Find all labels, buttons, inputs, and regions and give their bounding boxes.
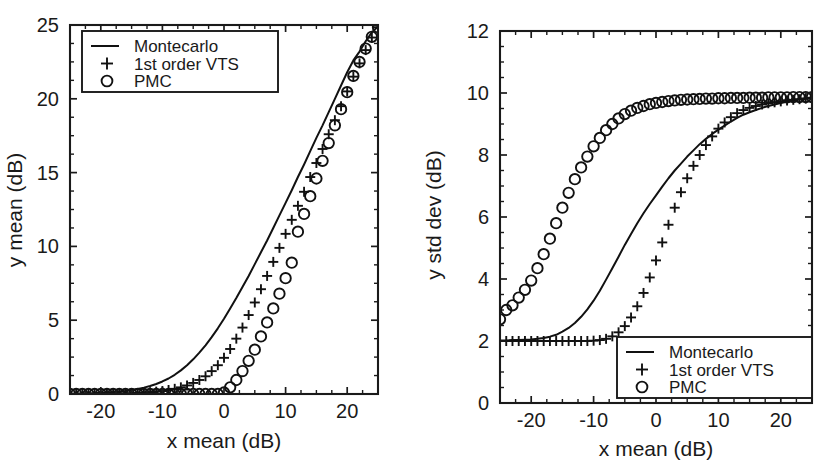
- marker-circle: [607, 119, 617, 129]
- marker-plus: [663, 220, 673, 230]
- marker-circle: [299, 209, 309, 219]
- marker-circle: [243, 356, 253, 366]
- chart-panel-right: -20-1001020024681012x mean (dB)y std dev…: [419, 0, 838, 469]
- marker-plus: [225, 344, 235, 354]
- legend-item-label: PMC: [134, 72, 172, 91]
- x-tick-label: 10: [274, 400, 296, 422]
- legend-item-label: PMC: [669, 378, 707, 397]
- marker-plus: [720, 117, 730, 127]
- series-montecarlo: [500, 97, 812, 340]
- marker-circle: [557, 203, 567, 213]
- marker-plus: [231, 334, 241, 344]
- marker-circle: [601, 125, 611, 135]
- marker-plus: [626, 312, 636, 322]
- marker-plus: [311, 158, 321, 168]
- series-1st-order-vts: [495, 93, 817, 346]
- y-tick-label: 20: [37, 88, 59, 110]
- marker-circle: [237, 366, 247, 376]
- right-plot-svg: -20-1001020024681012x mean (dB)y std dev…: [419, 0, 838, 469]
- marker-circle: [532, 263, 542, 273]
- x-tick-label: -20: [517, 409, 546, 431]
- y-tick-label: 5: [48, 309, 59, 331]
- y-tick-label: 12: [467, 20, 489, 42]
- marker-plus: [287, 215, 297, 225]
- series-line-path: [500, 97, 812, 340]
- marker-plus: [256, 284, 266, 294]
- marker-circle: [293, 226, 303, 236]
- marker-plus: [639, 288, 649, 298]
- marker-circle: [287, 257, 297, 267]
- marker-circle: [274, 288, 284, 298]
- x-axis-title: x mean (dB): [167, 429, 281, 452]
- marker-plus: [601, 334, 611, 344]
- marker-circle: [570, 174, 580, 184]
- marker-plus: [213, 360, 223, 370]
- chart-panel-left: -20-10010200510152025x mean (dB)y mean (…: [0, 0, 419, 469]
- marker-plus: [670, 203, 680, 213]
- marker-circle: [250, 345, 260, 355]
- marker-plus: [651, 255, 661, 265]
- marker-plus: [688, 161, 698, 171]
- y-tick-label: 15: [37, 162, 59, 184]
- marker-plus: [250, 297, 260, 307]
- legend-item-label: 1st order VTS: [134, 55, 239, 74]
- marker-circle: [324, 138, 334, 148]
- marker-plus: [707, 131, 717, 141]
- x-tick-label: 20: [770, 409, 792, 431]
- y-tick-label: 6: [478, 206, 489, 228]
- marker-plus: [695, 150, 705, 160]
- marker-circle: [576, 162, 586, 172]
- x-tick-label: 0: [650, 409, 661, 431]
- marker-plus: [620, 321, 630, 331]
- y-tick-label: 8: [478, 144, 489, 166]
- legend-item-label: 1st order VTS: [669, 361, 774, 380]
- marker-plus: [281, 229, 291, 239]
- marker-circle: [268, 303, 278, 313]
- marker-circle: [582, 151, 592, 161]
- x-tick-label: 10: [707, 409, 729, 431]
- x-tick-label: -10: [579, 409, 608, 431]
- figure-container: -20-10010200510152025x mean (dB)y mean (…: [0, 0, 838, 469]
- series-pmc: [495, 92, 817, 325]
- marker-circle: [526, 275, 536, 285]
- marker-plus: [262, 271, 272, 281]
- marker-plus: [676, 187, 686, 197]
- y-tick-label: 4: [478, 268, 489, 290]
- marker-circle: [305, 191, 315, 201]
- marker-plus: [244, 310, 254, 320]
- marker-plus: [657, 237, 667, 247]
- marker-circle: [563, 188, 573, 198]
- marker-plus: [219, 353, 229, 363]
- plot-data-area: [495, 92, 817, 346]
- y-tick-label: 2: [478, 330, 489, 352]
- marker-circle: [538, 249, 548, 259]
- x-tick-label: 20: [336, 400, 358, 422]
- marker-plus: [274, 243, 284, 253]
- marker-plus: [318, 144, 328, 154]
- x-tick-label: -20: [86, 400, 115, 422]
- x-tick-label: 0: [218, 400, 229, 422]
- marker-plus: [595, 335, 605, 345]
- marker-plus: [645, 272, 655, 282]
- y-tick-label: 10: [467, 82, 489, 104]
- marker-circle: [262, 317, 272, 327]
- marker-circle: [520, 285, 530, 295]
- y-tick-label: 0: [48, 383, 59, 405]
- y-tick-label: 25: [37, 14, 59, 36]
- left-plot-svg: -20-10010200510152025x mean (dB)y mean (…: [0, 0, 419, 469]
- legend: Montecarlo1st order VTSPMC: [82, 31, 278, 92]
- marker-plus: [682, 173, 692, 183]
- y-tick-label: 0: [478, 392, 489, 414]
- legend-item-label: Montecarlo: [669, 343, 753, 362]
- x-axis-title: x mean (dB): [599, 437, 713, 460]
- marker-plus: [237, 323, 247, 333]
- marker-circle: [317, 156, 327, 166]
- marker-circle: [311, 173, 321, 183]
- marker-circle: [256, 331, 266, 341]
- legend: Montecarlo1st order VTSPMC: [617, 337, 812, 398]
- y-axis-title: y std dev (dB): [422, 150, 445, 280]
- marker-plus: [268, 257, 278, 267]
- marker-circle: [545, 234, 555, 244]
- x-tick-label: -10: [148, 400, 177, 422]
- marker-plus: [632, 301, 642, 311]
